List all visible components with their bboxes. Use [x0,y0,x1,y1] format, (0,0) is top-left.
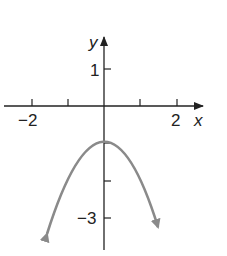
y-axis-label: y [88,33,99,52]
graph: y 1 −2 2 x −3 [0,0,227,256]
x-axis-label: x [193,111,203,130]
y-tick-label-1: 1 [90,61,99,80]
y-tick-label-neg3: −3 [77,209,96,228]
x-tick-label-2: 2 [171,111,180,130]
x-tick-label-neg2: −2 [18,111,37,130]
parabola-curve [47,142,158,234]
